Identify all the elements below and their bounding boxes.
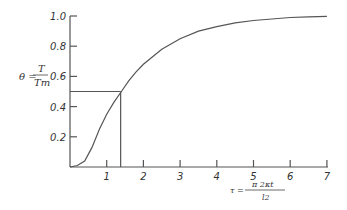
y-tick-label: 0.4 — [50, 102, 66, 113]
x-tick-label: 3 — [177, 171, 183, 182]
x-tick-label: 6 — [287, 171, 293, 182]
x-tick-label: 2 — [140, 171, 146, 182]
x-ticks: 1234567 — [104, 160, 331, 182]
y-tick-label: 1.0 — [50, 11, 66, 22]
x-denominator: l2 — [262, 193, 270, 202]
y-axis-label: θ = T Tm — [19, 63, 50, 88]
y-denominator: Tm — [34, 77, 50, 88]
x-numerator: π 2κt — [251, 180, 274, 189]
x-tick-label: 7 — [324, 171, 331, 182]
y-tick-label: 0.8 — [50, 41, 66, 52]
x-axis-label: τ = π 2κt l2 — [230, 180, 285, 202]
y-ticks: 0.20.40.60.81.0 — [50, 11, 77, 143]
x-tick-label: 1 — [104, 171, 110, 182]
y-tick-label: 0.2 — [50, 132, 66, 143]
tau-symbol: τ = — [230, 186, 244, 195]
x-tick-label: 4 — [214, 171, 220, 182]
y-tick-label: 0.6 — [50, 71, 66, 82]
y-numerator: T — [38, 63, 46, 74]
chart: 0.20.40.60.81.0 1234567 θ = T Tm τ = π 2… — [0, 0, 347, 210]
